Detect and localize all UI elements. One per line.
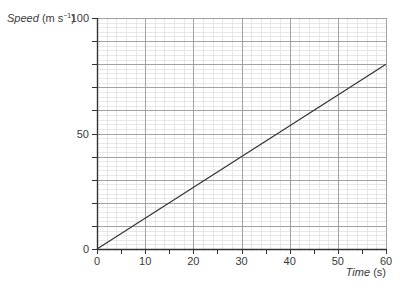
- x-tick-label: 10: [139, 255, 151, 267]
- speed-time-chart: 0102030405060050100 Speed (m s−1) Time (…: [0, 0, 403, 285]
- y-tick-label: 50: [77, 128, 89, 140]
- x-tick-label: 30: [235, 255, 247, 267]
- axes: [97, 18, 387, 250]
- x-tick-label: 20: [187, 255, 199, 267]
- x-tick-label: 40: [284, 255, 296, 267]
- grid-major: [97, 18, 387, 250]
- x-axis-title: Time (s): [346, 266, 386, 278]
- axis-ticks: [92, 19, 387, 255]
- x-tick-label: 0: [94, 255, 100, 267]
- grid-minor: [97, 18, 387, 250]
- y-tick-label: 0: [83, 243, 89, 255]
- x-tick-label: 50: [332, 255, 344, 267]
- y-axis-title: Speed (m s−1): [7, 12, 75, 24]
